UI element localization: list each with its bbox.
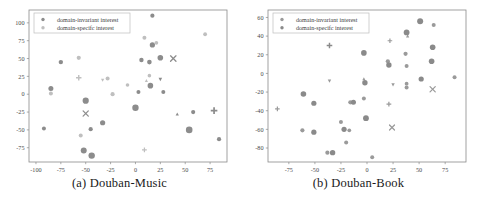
- data-point: [154, 41, 158, 45]
- data-point: [101, 79, 104, 82]
- data-point: [301, 91, 307, 97]
- x-tick-label: 75: [442, 166, 448, 173]
- x-tick-label: 25: [390, 166, 396, 173]
- y-tick-label: 25: [18, 73, 24, 80]
- panel-caption-b: (b) Douban-Book: [239, 176, 478, 191]
- data-point: [388, 38, 393, 43]
- data-point: [386, 102, 391, 107]
- legend-label-1: domain-specifc interest: [296, 25, 353, 31]
- data-point: [328, 80, 331, 83]
- data-point: [142, 36, 146, 40]
- data-point: [48, 86, 53, 91]
- data-point: [362, 97, 366, 101]
- data-point: [390, 125, 395, 130]
- data-point: [275, 107, 280, 112]
- y-tick-label: -75: [16, 144, 24, 151]
- data-point: [362, 77, 365, 80]
- data-point: [136, 90, 140, 94]
- data-point: [139, 58, 143, 62]
- data-point: [325, 151, 329, 155]
- data-point: [344, 140, 348, 144]
- data-point: [386, 62, 391, 67]
- legend-label-1: domain-specifc interest: [57, 25, 114, 31]
- data-point: [76, 75, 81, 80]
- x-tick-label: 50: [416, 166, 422, 173]
- data-point: [83, 98, 89, 104]
- data-point: [148, 74, 152, 78]
- data-point: [351, 100, 356, 105]
- y-tick-label: 0: [21, 90, 24, 97]
- data-point: [191, 110, 195, 114]
- data-point: [311, 101, 316, 106]
- y-tick-label: -40: [255, 107, 263, 114]
- data-point: [339, 120, 343, 124]
- data-point: [341, 127, 346, 132]
- data-point: [432, 23, 436, 27]
- data-point: [403, 52, 407, 56]
- series-domain-invariant: [275, 23, 456, 159]
- data-point: [430, 87, 435, 92]
- data-point: [405, 82, 409, 86]
- legend-marker-0: [41, 18, 44, 21]
- data-point: [89, 127, 93, 131]
- scatter-plot-a: -100-75-50-2502550751007550250-25-50-75d…: [0, 0, 239, 201]
- x-tick-label: -100: [30, 166, 41, 173]
- data-point: [142, 147, 147, 152]
- x-tick-label: -50: [311, 166, 319, 173]
- y-tick-label: 100: [15, 19, 24, 26]
- data-point: [453, 75, 457, 79]
- x-tick-label: 25: [157, 166, 163, 173]
- data-point: [176, 112, 179, 115]
- series-domain-specific: [301, 18, 436, 155]
- data-point: [311, 130, 316, 135]
- y-tick-label: -50: [16, 126, 24, 133]
- data-point: [83, 111, 88, 116]
- x-tick-label: -25: [337, 166, 345, 173]
- series-domain-specific: [49, 32, 207, 152]
- data-point: [391, 83, 394, 86]
- data-point: [361, 50, 367, 56]
- legend-marker-1: [41, 26, 44, 29]
- data-point: [362, 80, 367, 85]
- x-tick-label: 0: [365, 166, 368, 173]
- data-point: [347, 128, 351, 132]
- panel-douban-book: -75-50-2502550756040200-20-40-60-80domai…: [239, 0, 478, 201]
- data-point: [186, 127, 193, 134]
- data-point: [148, 83, 154, 89]
- data-point: [79, 134, 83, 138]
- panel-douban-music: -100-75-50-2502550751007550250-25-50-75d…: [0, 0, 239, 201]
- y-tick-label: 20: [257, 51, 263, 58]
- x-tick-label: 50: [182, 166, 188, 173]
- data-point: [145, 79, 148, 82]
- data-point: [330, 150, 335, 155]
- data-point: [217, 137, 221, 141]
- data-point: [419, 76, 424, 81]
- x-tick-label: -50: [82, 166, 90, 173]
- data-point: [150, 42, 155, 47]
- data-point: [42, 126, 46, 130]
- data-point: [430, 45, 436, 51]
- data-point: [159, 78, 163, 81]
- data-point: [429, 58, 435, 64]
- data-point: [405, 64, 409, 68]
- data-point: [110, 92, 114, 96]
- y-tick-label: -20: [255, 88, 263, 95]
- x-tick-label: -75: [285, 166, 293, 173]
- data-point: [77, 56, 81, 60]
- data-point: [81, 148, 87, 154]
- data-point: [150, 14, 154, 18]
- y-tick-label: 40: [257, 32, 263, 39]
- legend-label-0: domain-invariant interest: [57, 17, 119, 23]
- panel-caption-a: (a) Douban-Music: [0, 176, 239, 191]
- data-point: [370, 155, 374, 159]
- data-point: [106, 77, 110, 81]
- x-tick-label: 75: [207, 166, 213, 173]
- data-point: [132, 105, 138, 111]
- data-point: [417, 18, 423, 24]
- data-point: [161, 90, 165, 94]
- data-point: [203, 32, 207, 36]
- data-point: [405, 85, 409, 89]
- legend-label-0: domain-invariant interest: [296, 17, 358, 23]
- data-point: [300, 128, 304, 132]
- y-tick-label: 75: [18, 37, 24, 44]
